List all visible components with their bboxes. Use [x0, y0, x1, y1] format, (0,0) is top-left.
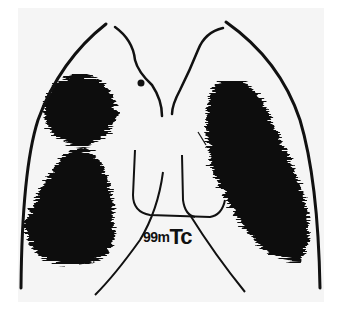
- isotope-element: Tc: [170, 224, 192, 249]
- marker-dot: [138, 80, 145, 87]
- lung-perfusion-scan: 99mTc: [0, 0, 338, 310]
- scan-image: [0, 0, 338, 310]
- isotope-mass-number: 99m: [143, 229, 170, 245]
- isotope-label: 99mTc: [143, 224, 192, 250]
